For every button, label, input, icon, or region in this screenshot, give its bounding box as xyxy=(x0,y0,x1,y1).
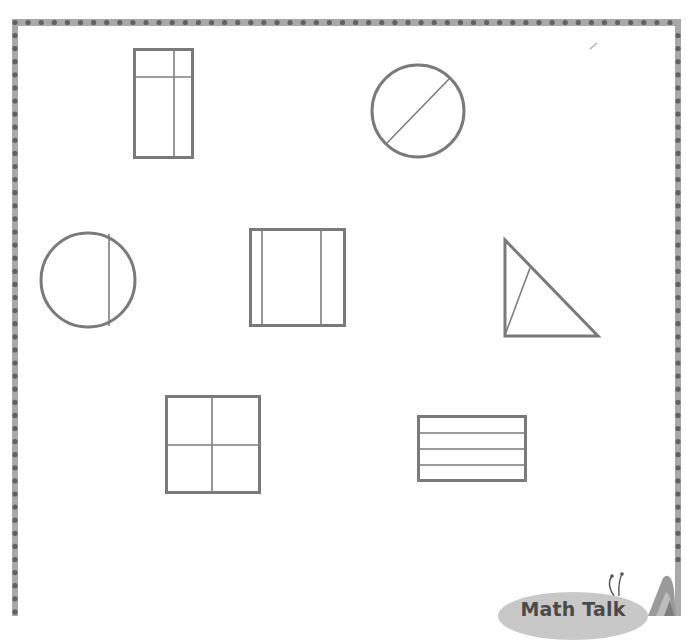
border-dot-left xyxy=(12,544,17,549)
border-dot-top xyxy=(301,20,306,25)
shape-circle-offset-split[interactable] xyxy=(41,233,135,327)
border-dot-right xyxy=(675,295,680,300)
border-dot-right xyxy=(675,138,680,143)
border-dot-left xyxy=(12,269,17,274)
border-dot-left xyxy=(12,596,17,601)
border-dot-right xyxy=(675,505,680,510)
border-dot-left xyxy=(12,112,17,117)
border-dot-right xyxy=(675,478,680,483)
border-dot-top xyxy=(536,20,541,25)
border-dot-left xyxy=(12,465,17,470)
border-dot-left xyxy=(12,387,17,392)
border-dot-left xyxy=(12,216,17,221)
border-dot-left xyxy=(12,229,17,234)
border-dot-top xyxy=(261,20,266,25)
border-dot-top xyxy=(222,20,227,25)
border-dot-right xyxy=(675,125,680,130)
border-dot-right xyxy=(675,112,680,117)
border-dot-left xyxy=(12,570,17,575)
border-dot-right xyxy=(675,544,680,549)
shape-circle-diagonal-split[interactable] xyxy=(372,65,464,157)
shape-square-three-strips[interactable] xyxy=(251,230,345,326)
border-dot-right xyxy=(675,72,680,77)
border-dot-left xyxy=(12,321,17,326)
triangle-outline xyxy=(505,240,598,336)
shape-square-quarters[interactable] xyxy=(167,397,260,493)
border-dot-left xyxy=(12,347,17,352)
border-dot-left xyxy=(12,256,17,261)
border-dot-left xyxy=(12,33,17,38)
border-dot-top xyxy=(117,20,122,25)
border-dot-left xyxy=(12,98,17,103)
border-dot-top xyxy=(471,20,476,25)
border-dot-top xyxy=(445,20,450,25)
math-talk-badge: Math Talk xyxy=(498,592,648,640)
slanted-divider xyxy=(505,268,530,335)
border-dot-right xyxy=(675,334,680,339)
border-dot-right xyxy=(675,282,680,287)
border-dot-left xyxy=(12,400,17,405)
border-dot-top xyxy=(550,20,555,25)
shape-rectangle-four-strips[interactable] xyxy=(419,417,526,481)
border-dot-right xyxy=(675,400,680,405)
border-dot-top xyxy=(654,20,659,25)
border-dot-left xyxy=(12,491,17,496)
border-dot-right xyxy=(675,374,680,379)
border-dot-top xyxy=(392,20,397,25)
border-dot-right xyxy=(675,46,680,51)
border-dot-top xyxy=(340,20,345,25)
border-dot-top xyxy=(157,20,162,25)
border-dot-top xyxy=(510,20,515,25)
border-dot-left xyxy=(12,374,17,379)
border-dot-right xyxy=(675,85,680,90)
border-right xyxy=(675,19,681,616)
border-dot-right xyxy=(675,243,680,248)
border-dot-right xyxy=(675,413,680,418)
border-dot-top xyxy=(104,20,109,25)
border-dot-top xyxy=(91,20,96,25)
border-dot-top xyxy=(65,20,70,25)
border-dot-top xyxy=(78,20,83,25)
border-dot-left xyxy=(12,125,17,130)
border-dot-top xyxy=(405,20,410,25)
math-talk-label: Math Talk xyxy=(498,598,648,620)
border-dot-right xyxy=(675,321,680,326)
border-dot-left xyxy=(12,439,17,444)
border-dot-right xyxy=(675,216,680,221)
border-dot-right xyxy=(675,177,680,182)
border-dot-left xyxy=(12,243,17,248)
border-dot-top xyxy=(52,20,57,25)
border-dot-left xyxy=(12,190,17,195)
border-dot-top xyxy=(419,20,424,25)
border-dot-top xyxy=(497,20,502,25)
border-dot-top xyxy=(667,20,672,25)
border-dot-left xyxy=(12,360,17,365)
border-dot-top xyxy=(170,20,175,25)
border-dot-right xyxy=(675,164,680,169)
border-dot-left xyxy=(12,518,17,523)
border-dot-right xyxy=(675,33,680,38)
border-dot-left xyxy=(12,334,17,339)
border-dot-right xyxy=(675,465,680,470)
border-dot-left xyxy=(12,85,17,90)
shape-rectangle-uneven-grid[interactable] xyxy=(135,50,193,158)
border-dot-left xyxy=(12,295,17,300)
border-dot-right xyxy=(675,452,680,457)
border-dot-top xyxy=(523,20,528,25)
border-dot-right xyxy=(675,360,680,365)
shape-triangle-split[interactable] xyxy=(505,240,598,336)
border-dot-right xyxy=(675,203,680,208)
border-dot-top xyxy=(563,20,568,25)
border-dot-left xyxy=(12,609,17,614)
border-dot-right xyxy=(675,491,680,496)
border-dot-left xyxy=(12,557,17,562)
rectangle-outline xyxy=(135,50,193,158)
border-dot-top xyxy=(484,20,489,25)
border-dot-right xyxy=(675,98,680,103)
border-dot-right xyxy=(675,151,680,156)
border-dot-top xyxy=(288,20,293,25)
border-dot-right xyxy=(675,269,680,274)
border-dot-top xyxy=(432,20,437,25)
border-dot-left xyxy=(12,164,17,169)
